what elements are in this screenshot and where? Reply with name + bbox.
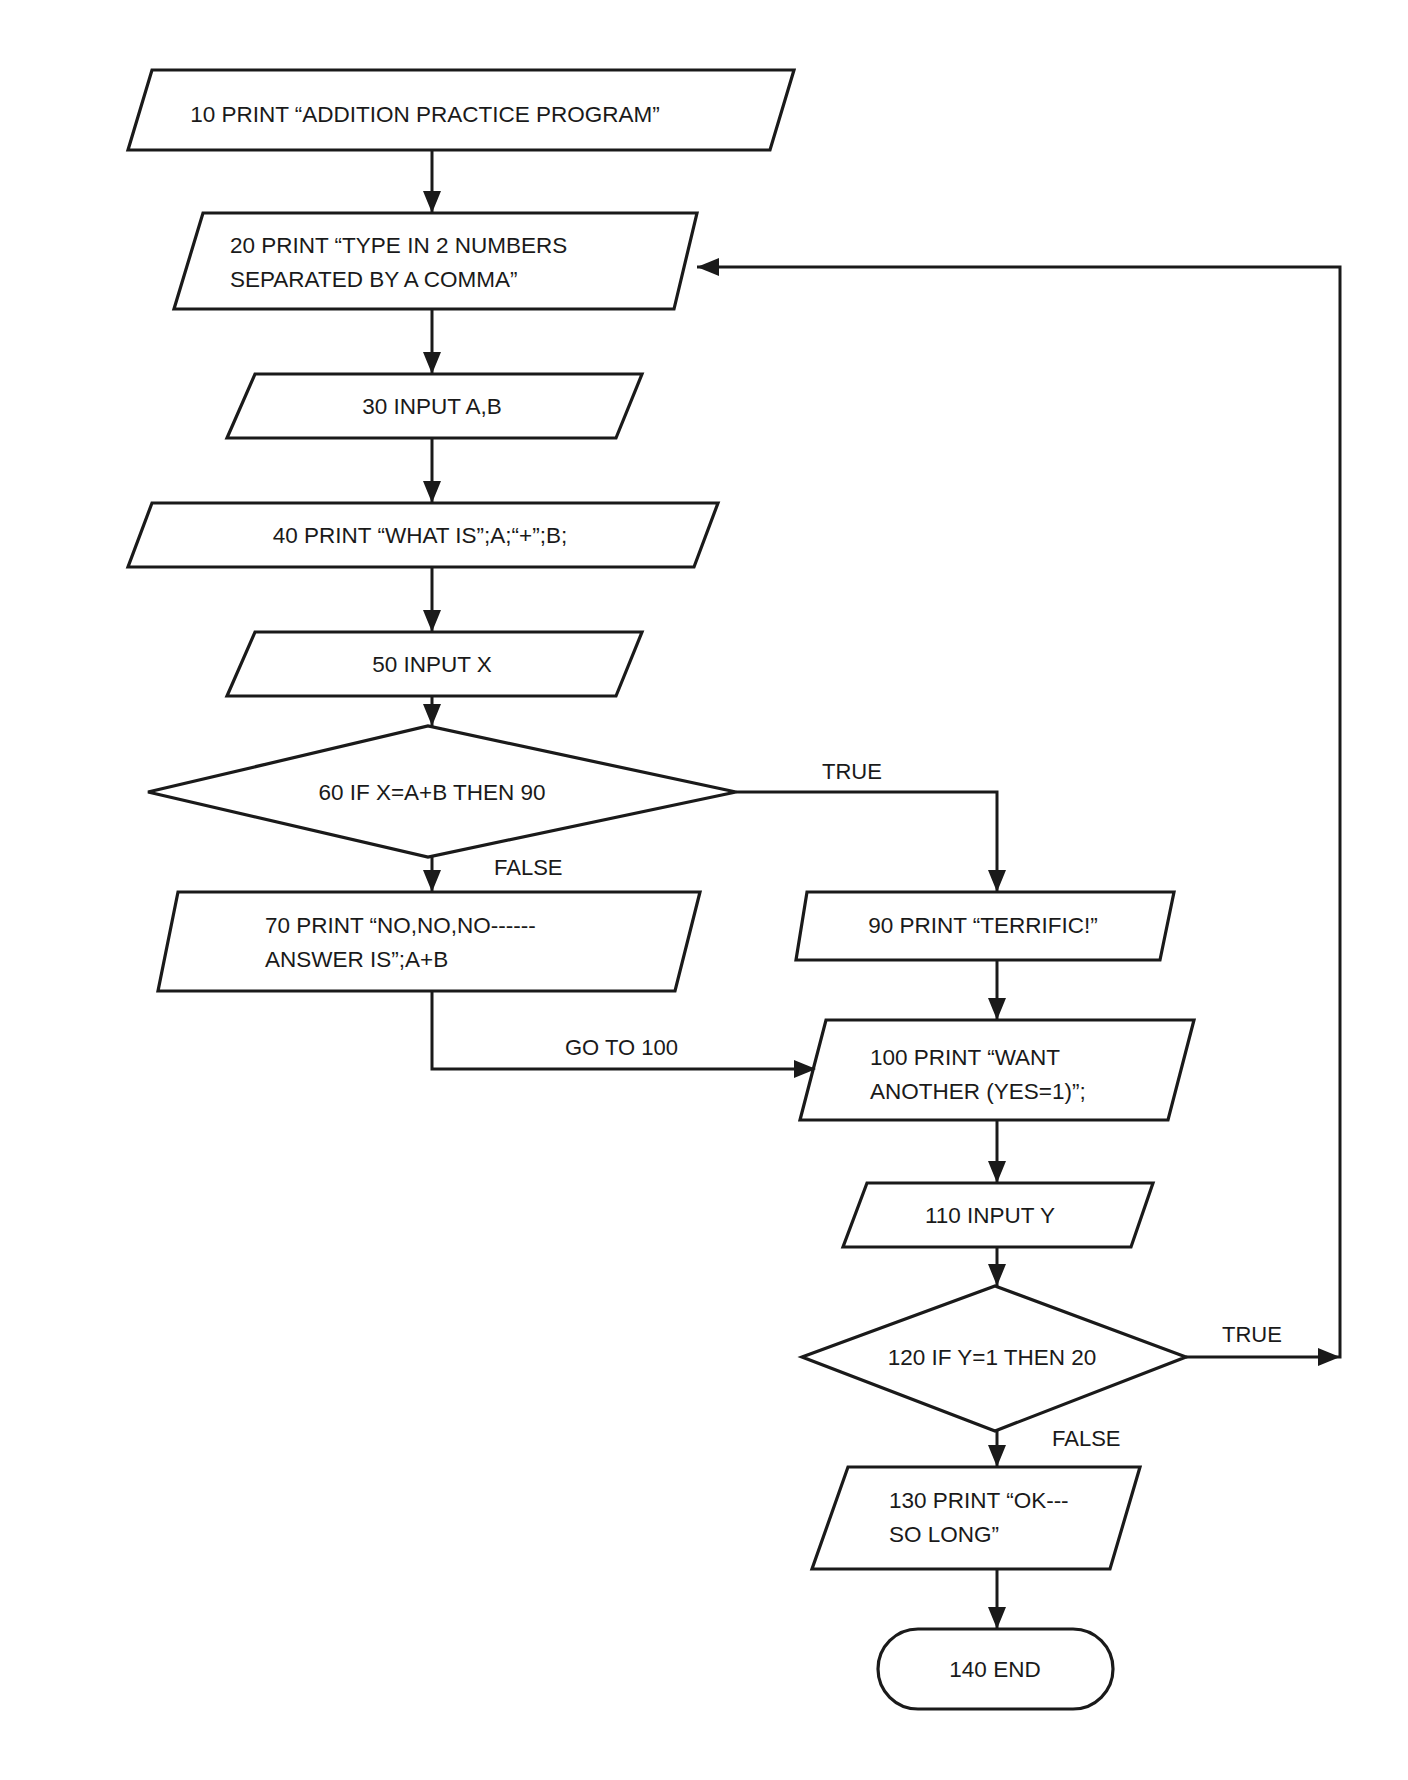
nodes-layer: 10 PRINT “ADDITION PRACTICE PROGRAM”20 P… (128, 70, 1194, 1709)
parallelogram-shape (158, 892, 700, 991)
arrowhead-icon (423, 191, 441, 213)
node-text: SEPARATED BY A COMMA” (230, 267, 518, 292)
edge-label-go-to-100: GO TO 100 (565, 1035, 678, 1060)
parallelogram-shape (800, 1020, 1194, 1120)
node-text: 40 PRINT “WHAT IS”;A;“+”;B; (273, 523, 567, 548)
node-parallelogram-70: 70 PRINT “NO,NO,NO------ANSWER IS”;A+B (158, 892, 700, 991)
edges-layer (432, 150, 1340, 1629)
node-parallelogram-20: 20 PRINT “TYPE IN 2 NUMBERSSEPARATED BY … (174, 213, 697, 309)
node-text: 130 PRINT “OK--- (889, 1488, 1069, 1513)
parallelogram-shape (174, 213, 697, 309)
node-text: SO LONG” (889, 1522, 999, 1547)
node-text: 100 PRINT “WANT (870, 1045, 1060, 1070)
node-terminator-140: 140 END (878, 1629, 1113, 1709)
arrowhead-icon (988, 1607, 1006, 1629)
parallelogram-shape (812, 1467, 1140, 1569)
node-text: 20 PRINT “TYPE IN 2 NUMBERS (230, 233, 567, 258)
arrowhead-icon (423, 704, 441, 726)
node-diamond-60: 60 IF X=A+B THEN 90 (148, 726, 736, 857)
node-parallelogram-130: 130 PRINT “OK---SO LONG” (812, 1467, 1140, 1569)
arrowhead-icon (423, 610, 441, 632)
arrowhead-icon (988, 1445, 1006, 1467)
node-parallelogram-10: 10 PRINT “ADDITION PRACTICE PROGRAM” (128, 70, 794, 150)
node-parallelogram-110: 110 INPUT Y (843, 1183, 1153, 1247)
node-text: 10 PRINT “ADDITION PRACTICE PROGRAM” (190, 102, 660, 127)
node-text: 50 INPUT X (372, 652, 492, 677)
node-text: 140 END (949, 1657, 1040, 1682)
node-parallelogram-30: 30 INPUT A,B (227, 374, 642, 438)
node-text: 60 IF X=A+B THEN 90 (318, 780, 545, 805)
arrowhead-icon (988, 870, 1006, 892)
node-parallelogram-100: 100 PRINT “WANTANOTHER (YES=1)”; (800, 1020, 1194, 1120)
arrowhead-icon (988, 998, 1006, 1020)
arrowhead-icon (988, 1264, 1006, 1286)
arrowhead-icon (423, 870, 441, 892)
flowchart-canvas: 10 PRINT “ADDITION PRACTICE PROGRAM”20 P… (0, 0, 1408, 1780)
edge-label-false: FALSE (1052, 1426, 1120, 1451)
node-text: 70 PRINT “NO,NO,NO------ (265, 913, 536, 938)
connector-n60-to-n90 (736, 792, 997, 892)
node-parallelogram-40: 40 PRINT “WHAT IS”;A;“+”;B; (128, 503, 718, 567)
node-text: ANSWER IS”;A+B (265, 947, 448, 972)
node-parallelogram-90: 90 PRINT “TERRIFIC!” (796, 892, 1174, 960)
node-text: 30 INPUT A,B (362, 394, 502, 419)
arrowhead-icon (423, 352, 441, 374)
arrowhead-icon (1318, 1348, 1340, 1366)
node-text: 120 IF Y=1 THEN 20 (888, 1345, 1097, 1370)
node-text: 90 PRINT “TERRIFIC!” (868, 913, 1098, 938)
arrowhead-icon (423, 481, 441, 503)
node-diamond-120: 120 IF Y=1 THEN 20 (802, 1286, 1186, 1431)
edge-label-true: TRUE (822, 759, 882, 784)
node-text: ANOTHER (YES=1)”; (870, 1079, 1086, 1104)
arrowhead-icon (697, 258, 719, 276)
node-parallelogram-50: 50 INPUT X (227, 632, 642, 696)
node-text: 110 INPUT Y (925, 1203, 1055, 1228)
edge-label-false: FALSE (494, 855, 562, 880)
edge-label-true: TRUE (1222, 1322, 1282, 1347)
arrowhead-icon (988, 1161, 1006, 1183)
